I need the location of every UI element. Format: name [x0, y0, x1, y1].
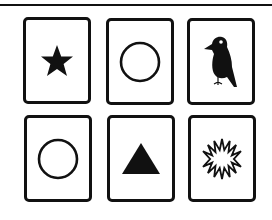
circle-icon — [36, 137, 80, 181]
bird-icon — [201, 32, 241, 92]
card-bird[interactable]: Bird — [187, 18, 255, 105]
card-triangle[interactable]: Triangle — [107, 115, 175, 202]
card-circle-1[interactable]: Circle — [106, 18, 174, 105]
circle-icon — [118, 40, 162, 84]
card-sunburst[interactable]: Sunburst — [188, 115, 256, 202]
card-circle-2[interactable]: Circle — [24, 115, 92, 202]
card-star[interactable]: Star — [23, 17, 91, 104]
sunburst-icon — [200, 137, 244, 181]
triangle-icon — [121, 142, 161, 176]
star-icon — [39, 43, 75, 79]
top-divider-line — [0, 4, 272, 6]
